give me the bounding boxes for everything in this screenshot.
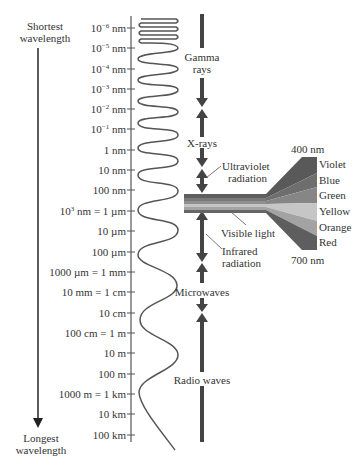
label-line: wavelength [14,32,76,44]
color-violet-label: Violet [319,158,346,170]
label-line: Ultraviolet [222,160,270,172]
label-line: Infrared [222,245,261,257]
tick-label-10-cm: 10 cm [99,307,126,319]
tick-label-1e-5-nm: 10−5 nm [91,42,126,54]
tick-label-1e-3-nm: 10−3 nm [91,83,126,95]
visible-light-label: Visible light [221,227,275,239]
tick-label-1-m: 100 cm = 1 m [65,327,126,339]
color-yellow-label: Yellow [319,205,350,217]
microwaves-label: Microwaves [172,286,232,298]
tick-label-1-um: 103 nm = 1 µm [60,205,126,217]
color-blue-label: Blue [319,174,340,186]
x-rays-label: X-rays [180,137,224,149]
shortest-wavelength-label: Shortest wavelength [14,20,76,44]
tick-label-1e-4-nm: 10−4 nm [91,63,126,75]
tick-label-1-cm: 10 mm = 1 cm [62,286,126,298]
tick-label-1-km: 1000 m = 1 km [59,388,126,400]
tick-label-1e-1-nm: 10−1 nm [91,123,126,135]
tick-label-100-um: 100 µm [92,246,126,258]
wavelength-direction-arrow [33,48,43,428]
tick-label-100-nm: 100 nm [93,184,126,196]
tick-label-1e-2-nm: 10−2 nm [91,103,126,115]
tick-label-100-m: 100 m [98,368,126,380]
tick-label-100-km: 100 km [93,429,126,441]
color-orange-label: Orange [319,221,351,233]
tick-label-1e-6-nm: 10−6 nm [91,22,126,34]
radio-waves-label: Radio waves [168,374,236,386]
wavelength-400nm-label: 400 nm [291,143,324,155]
ultraviolet-label: Ultraviolet radiation [222,160,270,184]
color-red-label: Red [319,236,337,248]
label-line: radiation [222,172,270,184]
tick-label-10-m: 10 m [104,347,126,359]
gamma-rays-label: Gamma rays [180,51,224,75]
wavelength-scale-axis [127,16,135,442]
label-line: Shortest [14,20,76,32]
color-green-label: Green [319,189,346,201]
visible-light-band [184,194,266,213]
label-line: Longest [10,432,72,444]
tick-label-10-km: 10 km [98,408,126,420]
label-line: radiation [222,257,261,269]
label-line: rays [180,63,224,75]
tick-label-1-nm: 1 nm [104,144,126,156]
tick-label-1-mm: 1000 µm = 1 mm [49,266,126,278]
label-line: Gamma [180,51,224,63]
label-line: wavelength [10,444,72,456]
infrared-label: Infrared radiation [222,245,261,269]
longest-wavelength-label: Longest wavelength [10,432,72,456]
tick-label-10-nm: 10 nm [98,164,126,176]
tick-label-10-um: 10 µm [97,225,126,237]
wavelength-700nm-label: 700 nm [291,254,324,266]
